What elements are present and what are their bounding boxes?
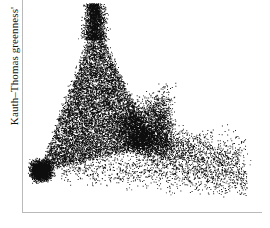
axis-spines [23,0,263,213]
scatter-plot-figure: Kauth–Thomas greenness' [0,0,270,228]
scatter-point-cloud [28,3,251,197]
plot-canvas [0,0,270,228]
scatter-points-layer [28,3,251,197]
